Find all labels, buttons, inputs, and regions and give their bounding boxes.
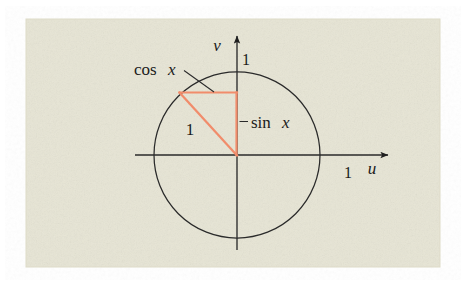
sin-label: sin x [251, 113, 290, 132]
v-axis-tick-one: 1 [242, 51, 250, 68]
cos-label-variable: x [167, 60, 176, 79]
sin-label-variable: x [281, 113, 290, 132]
radius-length-label: 1 [186, 120, 195, 139]
v-axis-label: v [213, 36, 221, 55]
cos-label-text: cos [134, 60, 157, 79]
sin-label-text: sin [251, 113, 271, 132]
u-axis-tick-one: 1 [344, 164, 352, 181]
figure-panel [26, 19, 440, 267]
figure-container: v u 1 1 cos x sin x 1 [0, 0, 462, 281]
unit-circle-figure: v u 1 1 cos x sin x 1 [0, 0, 462, 281]
u-axis-label: u [368, 159, 377, 178]
cos-label: cos x [134, 60, 176, 79]
